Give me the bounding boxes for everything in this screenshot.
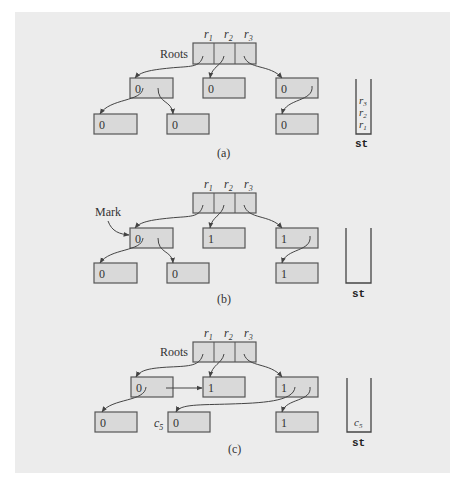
stack-label: st xyxy=(352,437,365,449)
svg-text:0: 0 xyxy=(100,416,106,430)
node-f: 0 xyxy=(276,114,318,134)
root-label-r1: r1 xyxy=(204,326,213,342)
stack-st: r3 r2 r1 st xyxy=(355,79,371,150)
svg-text:0: 0 xyxy=(136,381,142,395)
root-label-r2: r2 xyxy=(224,27,233,43)
svg-text:0: 0 xyxy=(281,82,287,96)
node-b: 0 xyxy=(203,78,245,98)
svg-text:0: 0 xyxy=(99,118,105,132)
node-d: 0 xyxy=(95,412,137,432)
svg-text:1: 1 xyxy=(208,232,214,246)
svg-text:1: 1 xyxy=(281,232,287,246)
stack-label: st xyxy=(352,288,365,300)
caption-c: (c) xyxy=(228,442,241,456)
stack-item: r1 xyxy=(359,118,367,132)
svg-text:1: 1 xyxy=(281,267,287,281)
root-label-r3: r3 xyxy=(244,177,253,193)
svg-text:0: 0 xyxy=(281,118,287,132)
svg-text:0: 0 xyxy=(172,267,178,281)
caption-a: (a) xyxy=(217,146,230,160)
node-d: 0 xyxy=(94,263,137,283)
panel-c: r1 r2 r3 Roots 0 1 1 0 0 c5 1 c5 st (c) xyxy=(95,326,371,456)
svg-text:1: 1 xyxy=(281,381,287,395)
svg-text:0: 0 xyxy=(173,416,179,430)
node-f: 1 xyxy=(276,412,318,432)
stack-label: st xyxy=(355,138,368,150)
panel-b: r1 r2 r3 Mark 0 1 1 0 0 1 st (b) xyxy=(94,177,371,306)
node-b: 1 xyxy=(203,377,245,397)
root-label-r1: r1 xyxy=(204,27,213,43)
svg-text:0: 0 xyxy=(172,118,178,132)
node-d: 0 xyxy=(94,114,137,134)
node-c: 1 xyxy=(276,228,318,248)
node-b: 1 xyxy=(203,228,245,248)
node-f: 1 xyxy=(276,263,318,283)
svg-text:1: 1 xyxy=(208,381,214,395)
root-label-r1: r1 xyxy=(204,177,213,193)
svg-text:0: 0 xyxy=(99,267,105,281)
caption-b: (b) xyxy=(217,292,231,306)
mark-annotation: Mark xyxy=(95,205,121,219)
node-a: 0 xyxy=(130,228,173,248)
stack-st: st xyxy=(346,228,371,300)
node-c: 1 xyxy=(276,377,318,397)
node-a: 0 xyxy=(130,78,173,98)
root-label-r3: r3 xyxy=(244,326,253,342)
node-e: 0 xyxy=(167,114,209,134)
node-e: 0 xyxy=(167,263,209,283)
node-a: 0 xyxy=(131,377,173,397)
roots-label: Roots xyxy=(160,345,188,359)
svg-text:1: 1 xyxy=(281,416,287,430)
mark-pointer-arrow xyxy=(108,221,129,235)
mark-sweep-diagram: r1 r2 r3 Roots 0 0 0 0 0 0 r3 r2 r1 st xyxy=(0,0,464,485)
root-label-r2: r2 xyxy=(224,177,233,193)
svg-text:0: 0 xyxy=(208,82,214,96)
root-label-r3: r3 xyxy=(244,27,253,43)
stack-item: c5 xyxy=(354,416,363,430)
root-label-r2: r2 xyxy=(224,326,233,342)
node-e: 0 xyxy=(168,412,210,432)
node-e-label: c5 xyxy=(154,416,163,432)
roots-label: Roots xyxy=(160,47,188,61)
panel-a: r1 r2 r3 Roots 0 0 0 0 0 0 r3 r2 r1 st xyxy=(94,27,371,160)
stack-st: c5 st xyxy=(347,378,371,449)
